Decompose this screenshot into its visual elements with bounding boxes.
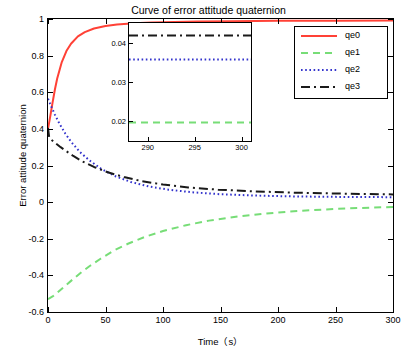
y-tick-label: -0.4 — [28, 270, 44, 280]
y-tick-mark — [388, 129, 393, 130]
inset-series-svg — [129, 23, 251, 141]
y-tick-label: 0.8 — [31, 51, 44, 61]
x-tick-mark — [163, 307, 164, 312]
y-tick-mark — [48, 239, 53, 240]
y-tick-label: 0.4 — [31, 124, 44, 134]
x-tick-label: 300 — [385, 315, 400, 325]
inset-plot-area: 0.020.030.04290295300 — [128, 22, 252, 142]
y-tick-label: 0.2 — [31, 161, 44, 171]
inset-x-tick-label: 295 — [188, 143, 201, 152]
x-tick-mark — [336, 307, 337, 312]
series-line-qe1 — [48, 207, 393, 299]
x-axis-label: Time（s） — [47, 334, 394, 348]
y-tick-mark — [388, 312, 393, 313]
legend: qe0qe1qe2qe3 — [294, 26, 388, 99]
x-tick-mark — [278, 19, 279, 24]
x-tick-mark — [393, 307, 394, 312]
x-tick-mark — [48, 19, 49, 24]
y-tick-mark — [48, 56, 53, 57]
y-tick-label: 0 — [39, 197, 44, 207]
x-tick-mark — [221, 307, 222, 312]
inset-y-tick-mark — [129, 121, 133, 122]
y-tick-mark — [388, 56, 393, 57]
legend-item-qe2[interactable]: qe2 — [295, 62, 387, 80]
inset-x-tick-label: 300 — [235, 143, 248, 152]
y-tick-mark — [388, 166, 393, 167]
x-tick-mark — [393, 19, 394, 24]
legend-item-qe0[interactable]: qe0 — [295, 28, 387, 46]
legend-label: qe2 — [345, 64, 360, 74]
y-axis-label: Error attitude quaternion — [17, 46, 28, 266]
inset-y-tick-label: 0.03 — [111, 78, 126, 87]
y-tick-mark — [48, 166, 53, 167]
inset-x-tick-label: 290 — [142, 143, 155, 152]
x-tick-label: 200 — [270, 315, 285, 325]
x-tick-mark — [106, 19, 107, 24]
y-tick-mark — [48, 129, 53, 130]
x-tick-mark — [106, 307, 107, 312]
y-tick-label: 0.6 — [31, 87, 44, 97]
y-tick-mark — [388, 202, 393, 203]
inset-x-tick-mark — [148, 137, 149, 141]
x-tick-mark — [48, 307, 49, 312]
x-tick-mark — [336, 19, 337, 24]
y-tick-mark — [388, 92, 393, 93]
legend-item-qe3[interactable]: qe3 — [295, 79, 387, 97]
inset-y-tick-label: 0.04 — [111, 38, 126, 47]
y-tick-mark — [48, 312, 53, 313]
y-tick-label: -0.6 — [28, 307, 44, 317]
chart-title: Curve of error attitude quaternion — [0, 4, 417, 16]
x-tick-label: 250 — [328, 315, 343, 325]
legend-label: qe1 — [345, 47, 360, 57]
legend-item-qe1[interactable]: qe1 — [295, 45, 387, 63]
legend-label: qe3 — [345, 81, 360, 91]
y-tick-mark — [48, 275, 53, 276]
y-tick-mark — [48, 202, 53, 203]
inset-y-tick-label: 0.02 — [111, 117, 126, 126]
inset-y-tick-mark — [129, 43, 133, 44]
x-tick-mark — [278, 307, 279, 312]
inset-y-tick-mark — [129, 82, 133, 83]
x-tick-label: 150 — [213, 315, 228, 325]
legend-label: qe0 — [345, 30, 360, 40]
chart-figure: Curve of error attitude quaternion -0.6-… — [0, 0, 417, 357]
inset-x-tick-mark — [242, 137, 243, 141]
y-tick-mark — [388, 239, 393, 240]
inset-x-tick-mark — [195, 137, 196, 141]
y-tick-label: 1 — [39, 14, 44, 24]
x-tick-label: 0 — [45, 315, 50, 325]
y-tick-label: -0.2 — [28, 234, 44, 244]
x-tick-label: 100 — [155, 315, 170, 325]
y-tick-mark — [48, 92, 53, 93]
x-tick-label: 50 — [100, 315, 110, 325]
y-tick-mark — [388, 275, 393, 276]
